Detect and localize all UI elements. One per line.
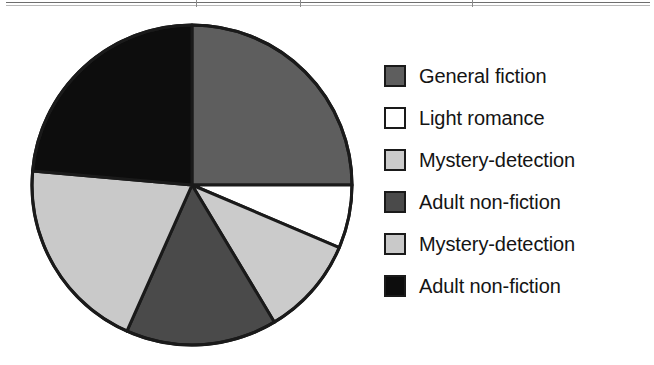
legend-swatch-icon	[384, 65, 406, 87]
page-top-tick-right	[472, 0, 473, 7]
page-top-rule	[6, 2, 650, 3]
pie-chart-figure: General fictionLight romanceMystery-dete…	[0, 0, 654, 365]
legend-item-label: Mystery-detection	[419, 149, 575, 171]
legend-swatch-icon	[384, 107, 406, 129]
legend-swatch-icon	[384, 149, 406, 171]
legend-swatch-icon	[384, 275, 406, 297]
legend-item[interactable]: Light romance	[384, 97, 646, 139]
legend-item[interactable]: Adult non-fiction	[384, 181, 646, 223]
legend-item-label: Mystery-detection	[419, 233, 575, 255]
legend-item-label: Adult non-fiction	[419, 275, 561, 297]
pie-svg	[26, 19, 358, 351]
chart-legend: General fictionLight romanceMystery-dete…	[384, 55, 646, 307]
page-top-tick-left	[196, 0, 197, 7]
pie-slice[interactable]	[192, 25, 352, 185]
legend-item[interactable]: Mystery-detection	[384, 139, 646, 181]
legend-item[interactable]: General fiction	[384, 55, 646, 97]
legend-item[interactable]: Mystery-detection	[384, 223, 646, 265]
legend-swatch-icon	[384, 191, 406, 213]
legend-item-label: Light romance	[419, 107, 544, 129]
pie-plot-area	[26, 19, 358, 351]
legend-item-label: Adult non-fiction	[419, 191, 561, 213]
legend-swatch-icon	[384, 233, 406, 255]
pie-slice[interactable]	[33, 25, 192, 185]
page-top-tick-mid	[300, 0, 301, 7]
legend-item[interactable]: Adult non-fiction	[384, 265, 646, 307]
legend-item-label: General fiction	[419, 65, 546, 87]
page-top-rule-shadow	[6, 5, 650, 6]
